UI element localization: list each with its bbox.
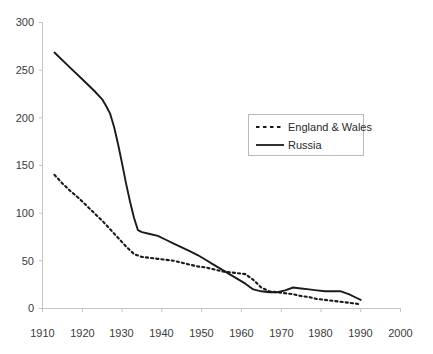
legend-item-russia: Russia xyxy=(249,136,363,154)
legend-swatch-solid-icon xyxy=(255,139,285,151)
x-tick-label-1920: 1920 xyxy=(62,327,103,339)
legend: England & Wales Russia xyxy=(248,114,364,156)
line-chart: 300 250 200 150 100 50 0 1910 1920 1930 … xyxy=(0,0,433,354)
legend-swatch-dashed-icon xyxy=(255,121,285,133)
x-tick-label-1930: 1930 xyxy=(101,327,142,339)
legend-label-england-wales: England & Wales xyxy=(288,121,372,133)
y-tick-label-100: 100 xyxy=(8,207,34,219)
series-line-russia xyxy=(54,53,360,300)
x-tick-label-1980: 1980 xyxy=(300,327,341,339)
y-tick-label-150: 150 xyxy=(8,159,34,171)
x-tick-label-1940: 1940 xyxy=(141,327,182,339)
y-tick-label-50: 50 xyxy=(8,255,34,267)
series-layer xyxy=(54,53,360,305)
y-tick-label-200: 200 xyxy=(8,112,34,124)
plot-area xyxy=(0,0,433,354)
x-tick-label-2000: 2000 xyxy=(380,327,421,339)
legend-item-england-wales: England & Wales xyxy=(249,118,363,136)
series-line-england-wales xyxy=(54,175,360,305)
y-tick-label-300: 300 xyxy=(8,16,34,28)
x-tick-label-1950: 1950 xyxy=(181,327,222,339)
x-tick-label-1960: 1960 xyxy=(221,327,262,339)
x-tick-label-1910: 1910 xyxy=(22,327,63,339)
x-tick-label-1970: 1970 xyxy=(261,327,302,339)
legend-label-russia: Russia xyxy=(288,139,322,151)
y-tick-label-250: 250 xyxy=(8,64,34,76)
y-tick-label-0: 0 xyxy=(8,302,34,314)
x-tick-label-1990: 1990 xyxy=(340,327,381,339)
y-tick-marks xyxy=(39,23,42,309)
